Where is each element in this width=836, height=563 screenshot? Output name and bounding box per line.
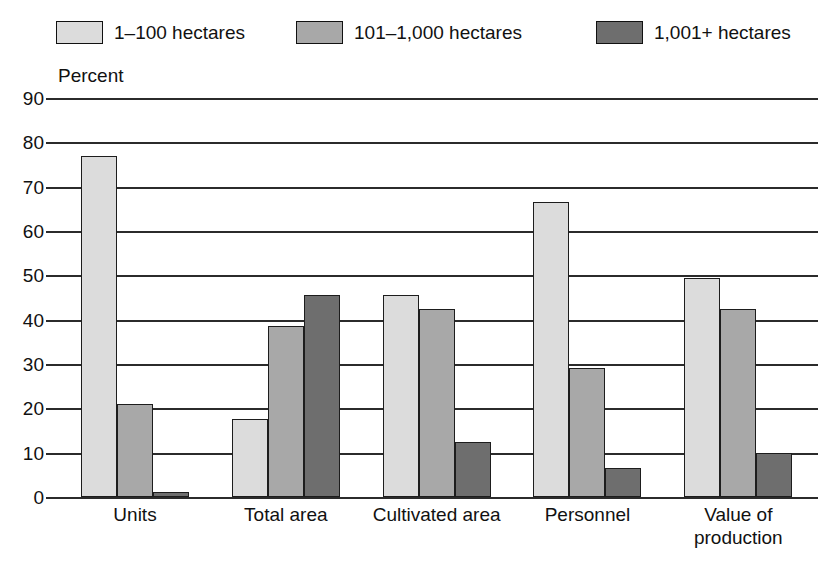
bar-4-3 xyxy=(605,468,641,497)
y-tick-mark-90 xyxy=(46,98,56,100)
bar-4-2 xyxy=(569,368,605,497)
y-tick-mark-20 xyxy=(46,408,56,410)
y-tick-mark-0 xyxy=(46,497,56,499)
gridline-0 xyxy=(56,497,818,499)
bar-4-1 xyxy=(533,202,569,497)
bars-layer xyxy=(56,98,818,497)
bar-3-3 xyxy=(455,442,491,497)
bar-5-1 xyxy=(684,278,720,497)
bar-3-1 xyxy=(383,295,419,497)
y-tick-mark-80 xyxy=(46,142,56,144)
legend-item-101-1000-hectares: 101–1,000 hectares xyxy=(296,19,522,45)
category-label-3: Cultivated area xyxy=(373,503,501,526)
chart-legend: 1–100 hectares 101–1,000 hectares 1,001+… xyxy=(0,0,836,60)
category-label-2: Total area xyxy=(244,503,327,526)
x-axis-category-labels: UnitsTotal areaCultivated areaPersonnelV… xyxy=(56,503,818,561)
bar-1-1 xyxy=(81,156,117,497)
legend-swatch-icon-series-3 xyxy=(596,21,643,44)
y-tick-mark-70 xyxy=(46,187,56,189)
y-tick-mark-40 xyxy=(46,320,56,322)
legend-item-1001-plus-hectares: 1,001+ hectares xyxy=(596,19,791,45)
category-label-5: Value of production xyxy=(694,503,783,549)
y-axis-title: Percent xyxy=(58,66,123,85)
y-tick-mark-10 xyxy=(46,453,56,455)
bar-chart: 1–100 hectares 101–1,000 hectares 1,001+… xyxy=(0,0,836,563)
legend-item-1-100-hectares: 1–100 hectares xyxy=(56,19,245,45)
y-tick-mark-60 xyxy=(46,231,56,233)
y-tick-mark-50 xyxy=(46,275,56,277)
bar-2-2 xyxy=(268,326,304,497)
bar-1-2 xyxy=(117,404,153,497)
legend-swatch-icon-series-2 xyxy=(296,21,343,44)
bar-2-3 xyxy=(304,295,340,497)
legend-swatch-icon-series-1 xyxy=(56,21,103,44)
bar-1-3 xyxy=(153,492,189,497)
category-label-1: Units xyxy=(113,503,156,526)
y-axis-tick-marks xyxy=(0,98,56,497)
y-tick-mark-30 xyxy=(46,364,56,366)
legend-label-series-3: 1,001+ hectares xyxy=(654,23,791,42)
category-label-4: Personnel xyxy=(545,503,631,526)
bar-3-2 xyxy=(419,309,455,497)
bar-2-1 xyxy=(232,419,268,497)
legend-label-series-1: 1–100 hectares xyxy=(114,23,245,42)
plot-area xyxy=(56,98,818,497)
legend-label-series-2: 101–1,000 hectares xyxy=(354,23,522,42)
bar-5-2 xyxy=(720,309,756,497)
bar-5-3 xyxy=(756,453,792,497)
